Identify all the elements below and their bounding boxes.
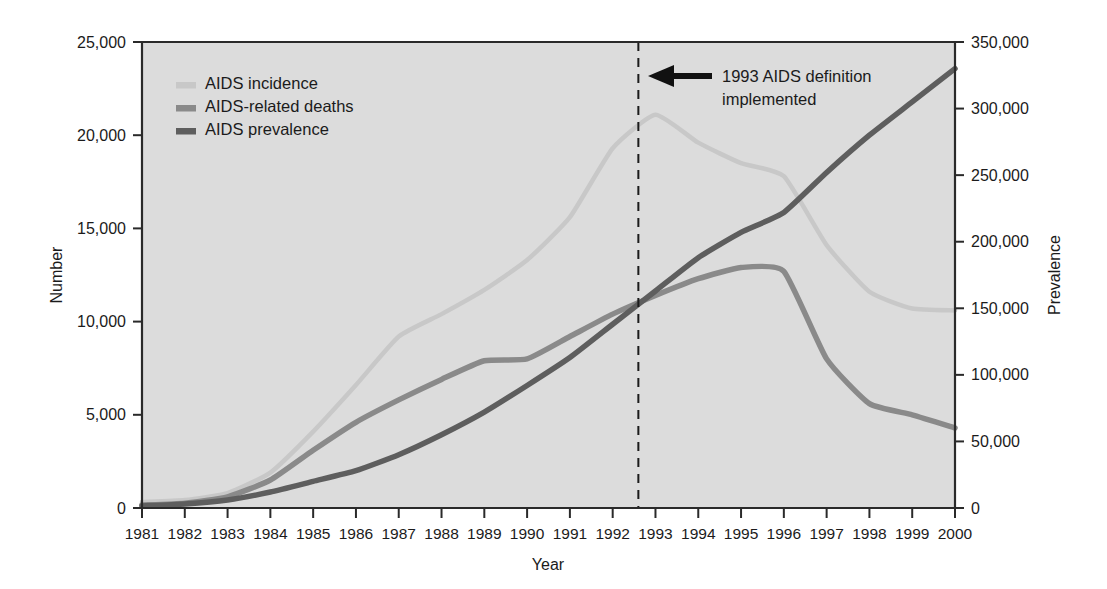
x-tick-label: 1986	[339, 525, 373, 542]
right-tick-label: 250,000	[971, 167, 1029, 184]
x-tick-label: 1993	[638, 525, 672, 542]
left-tick-label: 10,000	[77, 313, 126, 330]
x-tick-label: 1998	[852, 525, 886, 542]
left-tick-label: 20,000	[77, 127, 126, 144]
annotation-line-1: 1993 AIDS definition	[722, 67, 872, 85]
legend-label: AIDS-related deaths	[205, 97, 354, 115]
x-tick-label: 1992	[595, 525, 629, 542]
y-axis-title-left: Number	[48, 246, 65, 304]
x-tick-label: 1989	[467, 525, 501, 542]
right-tick-label: 100,000	[971, 366, 1029, 383]
legend-swatch	[176, 82, 196, 89]
legend-label: AIDS incidence	[205, 74, 318, 92]
legend-swatch	[176, 105, 196, 112]
right-tick-label: 200,000	[971, 233, 1029, 250]
right-tick-label: 350,000	[971, 34, 1029, 51]
right-tick-label: 0	[971, 500, 980, 517]
legend-label: AIDS prevalence	[205, 120, 329, 138]
x-tick-label: 1985	[296, 525, 330, 542]
x-tick-label: 1983	[210, 525, 244, 542]
right-tick-label: 150,000	[971, 300, 1029, 317]
x-tick-label: 1982	[168, 525, 202, 542]
x-tick-label: 1987	[381, 525, 415, 542]
aids-trends-line-chart: 1993 AIDS definition implemented 05,0001…	[0, 0, 1107, 589]
left-tick-label: 0	[117, 500, 126, 517]
x-tick-label: 1996	[767, 525, 801, 542]
left-tick-label: 5,000	[86, 406, 126, 423]
x-tick-label: 1997	[809, 525, 843, 542]
x-tick-label: 1984	[253, 525, 288, 542]
x-tick-label: 1991	[553, 525, 587, 542]
annotation-line-2: implemented	[722, 90, 816, 108]
y-axis-title-right: Prevalence	[1046, 235, 1063, 315]
x-axis-title: Year	[532, 556, 565, 573]
x-tick-label: 1994	[681, 525, 716, 542]
left-tick-label: 15,000	[77, 220, 126, 237]
x-tick-label: 1988	[424, 525, 458, 542]
chart-figure: 1993 AIDS definition implemented 05,0001…	[0, 0, 1107, 589]
legend-swatch	[176, 128, 196, 135]
x-tick-label: 2000	[938, 525, 973, 542]
left-tick-label: 25,000	[77, 34, 126, 51]
x-tick-label: 1990	[510, 525, 545, 542]
x-tick-label: 1999	[895, 525, 929, 542]
right-tick-label: 300,000	[971, 100, 1029, 117]
right-tick-label: 50,000	[971, 433, 1020, 450]
x-tick-label: 1995	[724, 525, 758, 542]
x-tick-label: 1981	[125, 525, 159, 542]
